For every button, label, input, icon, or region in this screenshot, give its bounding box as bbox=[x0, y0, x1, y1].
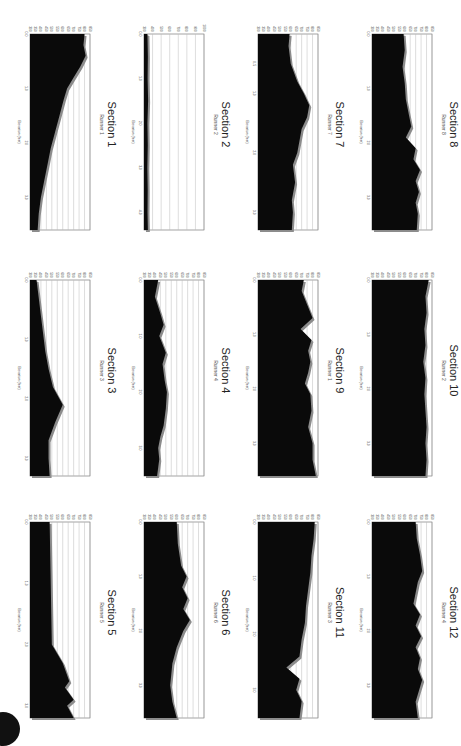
svg-text:500: 500 bbox=[391, 26, 395, 32]
svg-text:2.0: 2.0 bbox=[24, 396, 28, 401]
svg-text:350: 350 bbox=[147, 514, 151, 520]
elevation-area-plot: 3003504004505005506006507007508008500.01… bbox=[356, 500, 436, 725]
elevation-area-plot: 3003504004505005506006507007508008500.01… bbox=[14, 12, 94, 237]
svg-text:1.0: 1.0 bbox=[366, 86, 370, 91]
chart-section-8: Section 8Runner 830035040045050055060065… bbox=[355, 12, 460, 237]
svg-text:0.5: 0.5 bbox=[252, 61, 256, 66]
svg-text:3.0: 3.0 bbox=[138, 683, 142, 688]
svg-text:750: 750 bbox=[191, 272, 195, 278]
svg-text:1.0: 1.0 bbox=[252, 576, 256, 581]
elevation-area-plot: 3003504004505005506006507007508008500.01… bbox=[128, 258, 208, 483]
chart-subtitle: Runner 8 bbox=[441, 12, 447, 237]
svg-text:Elevation (feet): Elevation (feet) bbox=[245, 608, 249, 632]
svg-text:Elevation (feet): Elevation (feet) bbox=[131, 120, 135, 144]
svg-text:0.0: 0.0 bbox=[366, 32, 370, 37]
svg-text:500: 500 bbox=[277, 26, 281, 32]
elevation-area-plot: 3003504004505005506006507007508008500.01… bbox=[242, 258, 322, 483]
chart-section-12: Section 12Runner 43003504004505005506006… bbox=[355, 500, 460, 725]
svg-text:550: 550 bbox=[55, 26, 59, 32]
svg-text:3.0: 3.0 bbox=[24, 195, 28, 200]
svg-text:400: 400 bbox=[380, 514, 384, 520]
svg-text:800: 800 bbox=[82, 272, 86, 278]
svg-text:750: 750 bbox=[419, 272, 423, 278]
svg-text:3.0: 3.0 bbox=[366, 441, 370, 446]
svg-text:600: 600 bbox=[60, 272, 64, 278]
svg-text:2.0: 2.0 bbox=[252, 386, 256, 391]
svg-text:0.0: 0.0 bbox=[24, 32, 28, 37]
svg-text:300: 300 bbox=[28, 514, 32, 520]
svg-text:750: 750 bbox=[419, 514, 423, 520]
svg-text:3.0: 3.0 bbox=[138, 165, 142, 170]
svg-text:750: 750 bbox=[305, 514, 309, 520]
svg-text:350: 350 bbox=[33, 26, 37, 32]
svg-text:Elevation (feet): Elevation (feet) bbox=[17, 120, 21, 144]
svg-text:350: 350 bbox=[375, 514, 379, 520]
svg-text:500: 500 bbox=[391, 272, 395, 278]
svg-text:500: 500 bbox=[277, 272, 281, 278]
svg-text:450: 450 bbox=[158, 514, 162, 520]
svg-text:300: 300 bbox=[142, 26, 146, 32]
svg-text:3.0: 3.0 bbox=[24, 703, 28, 708]
svg-text:350: 350 bbox=[33, 272, 37, 278]
chart-section-2: Section 2Runner 230040050060070080090010… bbox=[127, 12, 232, 237]
svg-text:Elevation (feet): Elevation (feet) bbox=[359, 366, 363, 390]
chart-title: Section 8 bbox=[448, 12, 460, 237]
svg-text:1.0: 1.0 bbox=[138, 76, 142, 81]
svg-text:850: 850 bbox=[202, 514, 206, 520]
svg-text:550: 550 bbox=[55, 514, 59, 520]
svg-text:Elevation (feet): Elevation (feet) bbox=[359, 120, 363, 144]
svg-text:400: 400 bbox=[152, 514, 156, 520]
svg-text:650: 650 bbox=[180, 272, 184, 278]
elevation-area-plot: 3003504004505005506006507007508008500.01… bbox=[242, 500, 322, 725]
svg-text:0.0: 0.0 bbox=[366, 278, 370, 283]
svg-text:700: 700 bbox=[413, 26, 417, 32]
svg-text:350: 350 bbox=[375, 26, 379, 32]
svg-text:500: 500 bbox=[391, 514, 395, 520]
svg-text:850: 850 bbox=[430, 272, 434, 278]
chart-subtitle: Runner 4 bbox=[213, 258, 219, 483]
svg-text:450: 450 bbox=[386, 514, 390, 520]
chart-section-10: Section 10Runner 23003504004505005506006… bbox=[355, 258, 460, 483]
svg-text:2.0: 2.0 bbox=[24, 140, 28, 145]
svg-text:850: 850 bbox=[88, 514, 92, 520]
elevation-area-plot: 3003504004505005506006507007508008500.01… bbox=[128, 500, 208, 725]
svg-text:0.0: 0.0 bbox=[138, 278, 142, 283]
svg-text:850: 850 bbox=[430, 514, 434, 520]
chart-title: Section 1 bbox=[106, 12, 118, 237]
chart-title: Section 12 bbox=[448, 500, 460, 725]
svg-text:300: 300 bbox=[256, 514, 260, 520]
svg-text:1.0: 1.0 bbox=[252, 91, 256, 96]
svg-text:Elevation (feet): Elevation (feet) bbox=[131, 608, 135, 632]
svg-text:400: 400 bbox=[266, 514, 270, 520]
chart-subtitle: Runner 3 bbox=[99, 258, 105, 483]
svg-text:600: 600 bbox=[174, 514, 178, 520]
svg-text:600: 600 bbox=[402, 272, 406, 278]
svg-text:3.0: 3.0 bbox=[366, 683, 370, 688]
svg-text:850: 850 bbox=[88, 272, 92, 278]
svg-text:300: 300 bbox=[256, 272, 260, 278]
chart-title: Section 6 bbox=[220, 500, 232, 725]
svg-text:650: 650 bbox=[66, 514, 70, 520]
svg-text:400: 400 bbox=[380, 26, 384, 32]
svg-text:2.0: 2.0 bbox=[138, 628, 142, 633]
svg-text:650: 650 bbox=[408, 272, 412, 278]
svg-text:400: 400 bbox=[266, 26, 270, 32]
svg-text:550: 550 bbox=[397, 514, 401, 520]
svg-text:500: 500 bbox=[49, 272, 53, 278]
svg-text:300: 300 bbox=[142, 272, 146, 278]
svg-text:1.0: 1.0 bbox=[24, 581, 28, 586]
svg-text:850: 850 bbox=[202, 272, 206, 278]
svg-text:800: 800 bbox=[424, 26, 428, 32]
svg-text:650: 650 bbox=[294, 514, 298, 520]
chart-subtitle: Runner 1 bbox=[99, 12, 105, 237]
svg-text:300: 300 bbox=[370, 26, 374, 32]
svg-text:800: 800 bbox=[184, 26, 188, 32]
svg-text:350: 350 bbox=[147, 272, 151, 278]
svg-text:400: 400 bbox=[150, 26, 154, 32]
elevation-area-plot: 3003504004505005506006507007508008500.01… bbox=[356, 258, 436, 483]
chart-title: Section 10 bbox=[448, 258, 460, 483]
svg-text:500: 500 bbox=[49, 26, 53, 32]
svg-text:3.0: 3.0 bbox=[138, 446, 142, 451]
svg-text:700: 700 bbox=[71, 272, 75, 278]
svg-text:350: 350 bbox=[261, 26, 265, 32]
